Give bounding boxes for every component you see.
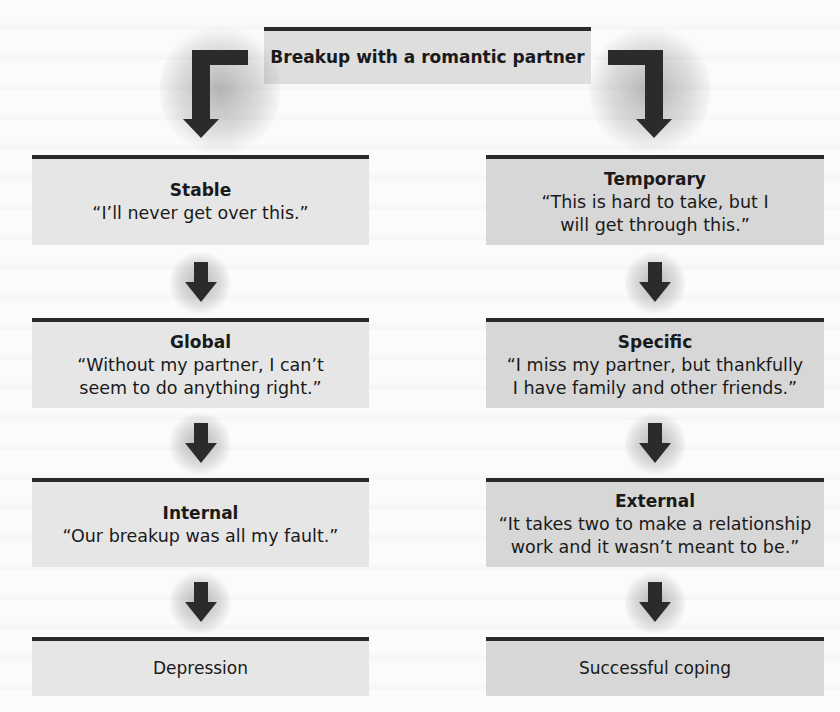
down-arrow-icon xyxy=(185,262,217,304)
node-temporary: Temporary “This is hard to take, but I w… xyxy=(486,155,824,245)
node-title: Internal xyxy=(163,502,239,525)
down-arrow-icon xyxy=(639,262,671,304)
node-quote: “Our breakup was all my fault.” xyxy=(63,525,339,548)
node-title: Temporary xyxy=(604,168,706,191)
node-external: External “It takes two to make a relatio… xyxy=(486,478,824,567)
node-title: Specific xyxy=(618,331,693,354)
node-successful-coping: Successful coping xyxy=(486,637,824,696)
node-title: External xyxy=(615,490,695,513)
node-specific: Specific “I miss my partner, but thankfu… xyxy=(486,318,824,408)
node-title: Stable xyxy=(170,179,231,202)
down-arrow-icon xyxy=(185,423,217,465)
node-title: Depression xyxy=(153,657,248,680)
node-title: Successful coping xyxy=(579,657,731,680)
node-quote: “It takes two to make a relationship wor… xyxy=(499,513,812,559)
node-global: Global “Without my partner, I can’t seem… xyxy=(32,318,369,408)
node-quote: “I’ll never get over this.” xyxy=(92,202,308,225)
node-quote: “This is hard to take, but I will get th… xyxy=(541,191,768,237)
down-arrow-icon xyxy=(639,423,671,465)
node-quote: “I miss my partner, but thankfully I hav… xyxy=(507,354,803,400)
down-arrow-icon xyxy=(185,582,217,624)
node-stable: Stable “I’ll never get over this.” xyxy=(32,155,369,245)
node-quote: “Without my partner, I can’t seem to do … xyxy=(77,354,324,400)
node-internal: Internal “Our breakup was all my fault.” xyxy=(32,478,369,567)
down-arrow-icon xyxy=(639,582,671,624)
node-depression: Depression xyxy=(32,637,369,696)
node-title: Global xyxy=(170,331,231,354)
